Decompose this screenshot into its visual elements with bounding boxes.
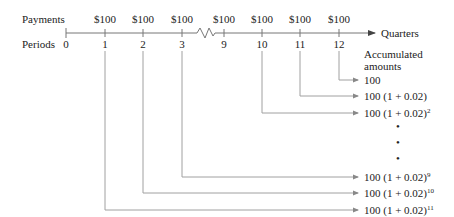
accumulated-amount-from-10: 100 (1 + 0.02)2 — [364, 107, 431, 119]
accumulated-amount-base: 100 (1 + 0.02) — [364, 171, 427, 183]
ellipsis-dot-1: • — [396, 121, 400, 132]
accumulated-amount-exponent: 11 — [427, 204, 434, 212]
payment-amount-period-2: $100 — [132, 13, 154, 25]
accumulated-amount-base: 100 (1 + 0.02) — [364, 204, 427, 216]
ellipsis-dot-3: • — [396, 153, 400, 164]
accumulated-amount-base: 100 (1 + 0.02) — [364, 90, 427, 102]
accumulated-amount-base: 100 (1 + 0.02) — [364, 187, 427, 199]
accumulated-amount-exponent: 10 — [427, 187, 434, 195]
period-label-9: 9 — [221, 38, 227, 50]
period-label-12: 12 — [334, 38, 345, 50]
payment-amount-period-12: $100 — [328, 13, 350, 25]
accumulated-amount-from-2: 100 (1 + 0.02)10 — [364, 187, 434, 199]
time-axis — [66, 28, 375, 38]
accumulated-header-line1: Accumulated — [364, 48, 423, 60]
payment-amount-period-3: $100 — [171, 13, 193, 25]
accumulated-amount-from-1: 100 (1 + 0.02)11 — [364, 204, 434, 216]
period-label-2: 2 — [140, 38, 146, 50]
accumulation-connectors — [105, 51, 358, 210]
period-label-0: 0 — [63, 38, 69, 50]
payment-amount-period-11: $100 — [289, 13, 311, 25]
period-label-11: 11 — [295, 38, 306, 50]
accumulated-amount-from-3: 100 (1 + 0.02)9 — [364, 171, 431, 183]
axis-label-quarters: Quarters — [381, 27, 419, 39]
accumulated-amount-base: 100 — [364, 74, 381, 86]
payment-amount-period-9: $100 — [213, 13, 235, 25]
accumulated-amount-from-12: 100 — [364, 74, 381, 86]
accumulated-amount-base: 100 (1 + 0.02) — [364, 107, 427, 119]
period-label-3: 3 — [179, 38, 185, 50]
payments-row-label: Payments — [22, 13, 65, 25]
period-label-10: 10 — [257, 38, 268, 50]
accumulated-amount-exponent: 2 — [427, 107, 431, 115]
periods-row-label: Periods — [22, 38, 55, 50]
accumulated-amount-from-11: 100 (1 + 0.02) — [364, 90, 427, 102]
period-label-1: 1 — [102, 38, 108, 50]
accumulated-header-line2: amounts — [364, 60, 401, 72]
ellipsis-dot-2: • — [396, 137, 400, 148]
payment-amount-period-10: $100 — [251, 13, 273, 25]
payment-amount-period-1: $100 — [94, 13, 116, 25]
accumulated-amount-exponent: 9 — [427, 171, 431, 179]
